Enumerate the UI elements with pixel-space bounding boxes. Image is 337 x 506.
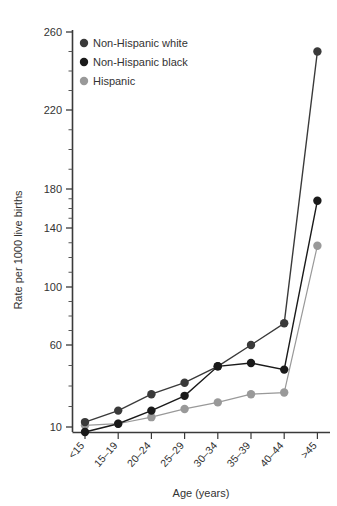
data-point bbox=[313, 47, 321, 55]
data-point bbox=[114, 406, 122, 414]
data-point bbox=[247, 390, 255, 398]
legend-dot-icon bbox=[80, 58, 88, 66]
y-axis-tick-label: 10 bbox=[50, 421, 62, 433]
data-point bbox=[147, 390, 155, 398]
data-point bbox=[147, 406, 155, 414]
x-axis-tick-label: >45 bbox=[298, 439, 319, 460]
series-points-group bbox=[81, 47, 322, 436]
y-axis-tick-label: 220 bbox=[44, 104, 62, 116]
y-axis-ticks bbox=[66, 32, 73, 427]
x-axis-tick-label: 20–24 bbox=[124, 439, 153, 469]
y-axis-tick-label: 180 bbox=[44, 183, 62, 195]
data-point bbox=[180, 405, 188, 413]
legend-dot-icon bbox=[80, 77, 88, 85]
data-point bbox=[180, 392, 188, 400]
y-axis-tick-label: 260 bbox=[44, 26, 62, 38]
data-point bbox=[247, 359, 255, 367]
y-axis-tick-label: 100 bbox=[44, 281, 62, 293]
data-point bbox=[280, 388, 288, 396]
x-axis-tick-label: 40–44 bbox=[257, 439, 286, 469]
data-point bbox=[280, 365, 288, 373]
series-line bbox=[85, 201, 317, 432]
y-axis-tick-labels: 1060100140180220260 bbox=[44, 26, 62, 433]
legend-item-label: Non-Hispanic black bbox=[93, 56, 188, 68]
x-axis-ticks bbox=[85, 433, 317, 440]
data-point bbox=[280, 319, 288, 327]
data-point bbox=[81, 428, 89, 436]
series-line bbox=[85, 246, 317, 426]
data-point bbox=[247, 341, 255, 349]
legend-dot-icon bbox=[80, 39, 88, 47]
x-axis-tick-label: 25–29 bbox=[158, 439, 187, 469]
x-axis-tick-label: 30–34 bbox=[191, 439, 220, 469]
data-point bbox=[81, 418, 89, 426]
x-axis-tick-label: 15–19 bbox=[91, 439, 120, 469]
data-point bbox=[214, 398, 222, 406]
y-axis-title: Rate per 1000 live births bbox=[12, 190, 24, 310]
data-point bbox=[114, 420, 122, 428]
data-point bbox=[214, 362, 222, 370]
data-point bbox=[313, 197, 321, 205]
legend-item-label: Hispanic bbox=[93, 75, 136, 87]
data-point bbox=[313, 242, 321, 250]
x-axis-tick-labels: <1515–1920–2425–2930–3435–3940–44>45 bbox=[66, 439, 319, 469]
x-axis-title: Age (years) bbox=[173, 487, 230, 499]
data-point bbox=[180, 379, 188, 387]
x-axis-tick-label: <15 bbox=[66, 439, 87, 460]
chart-legend: Non-Hispanic whiteNon-Hispanic blackHisp… bbox=[80, 37, 188, 87]
y-axis-tick-label: 60 bbox=[50, 339, 62, 351]
series-lines-group bbox=[85, 52, 317, 433]
x-axis-tick-label: 35–39 bbox=[224, 439, 253, 469]
legend-item-label: Non-Hispanic white bbox=[93, 37, 188, 49]
rate-by-age-line-chart: 1060100140180220260 <1515–1920–2425–2930… bbox=[0, 0, 337, 506]
y-axis-tick-label: 140 bbox=[44, 222, 62, 234]
chart-container: 1060100140180220260 <1515–1920–2425–2930… bbox=[0, 0, 337, 506]
